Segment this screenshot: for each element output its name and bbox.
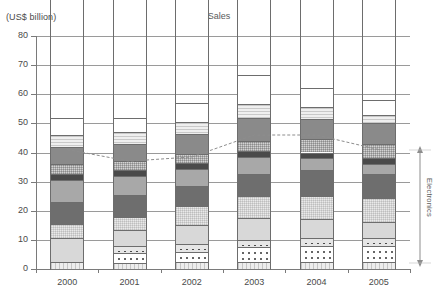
- y-axis-tick-label: 30: [2, 176, 28, 186]
- bar-segment-s12-white-top: [51, 118, 83, 135]
- bar-segment-s8-black: [51, 174, 83, 180]
- y-tick-80: [31, 36, 37, 37]
- x-tick: [348, 269, 349, 273]
- bar-segment-s8-black: [363, 158, 395, 164]
- bar-segment-s12-white-top: [238, 75, 270, 104]
- y-axis-tick-label: 50: [2, 117, 28, 127]
- gridline-60: [36, 94, 410, 95]
- bar-2000[interactable]: [50, 0, 84, 270]
- bar-segment-s2-dots-open: [238, 247, 270, 262]
- bar-segment-s11-hstripe: [301, 107, 333, 119]
- bar-segment-s1-base-vstripe: [363, 262, 395, 269]
- bar-segment-s8-black: [114, 170, 146, 176]
- bar-segment-s3-dots-filled: [238, 240, 270, 247]
- electronics-label: Electronics: [425, 178, 434, 217]
- bar-segment-s2-dots-open: [114, 253, 146, 263]
- y-axis-tick-label: 0: [2, 263, 28, 273]
- bar-segment-s7-grey: [51, 180, 83, 202]
- gridline-40: [36, 153, 410, 154]
- bar-segment-s3-dots-filled: [176, 244, 208, 251]
- gridline-70: [36, 65, 410, 66]
- bar-segment-s9-checker-dark: [363, 144, 395, 159]
- bar-segment-s8-black: [238, 151, 270, 157]
- bar-segment-s4-light: [114, 230, 146, 246]
- bar-segment-s3-dots-filled: [363, 238, 395, 245]
- bar-segment-s10-dark: [114, 144, 146, 161]
- y-tick-20: [31, 211, 37, 212]
- bar-segment-s6-vdark: [238, 174, 270, 196]
- bar-segment-s12-white-top: [301, 88, 333, 107]
- gridline-10: [36, 240, 410, 241]
- x-axis-tick-label: 2003: [226, 277, 282, 287]
- bar-segment-s2-dots-open: [363, 246, 395, 262]
- bar-2005[interactable]: [362, 0, 396, 270]
- bar-2001[interactable]: [113, 0, 147, 270]
- bar-segment-s3-dots-filled: [114, 246, 146, 253]
- bar-segment-s11-hstripe: [51, 135, 83, 147]
- bar-segment-s9-checker-dark: [301, 139, 333, 152]
- y-axis-tick-label: 10: [2, 234, 28, 244]
- bar-segment-s1-base-vstripe: [301, 262, 333, 269]
- y-axis-tick-label: 60: [2, 88, 28, 98]
- bar-segment-s5-checker: [114, 217, 146, 230]
- x-tick: [161, 269, 162, 273]
- bar-segment-s5-checker: [363, 198, 395, 223]
- bar-segment-s9-checker-dark: [51, 164, 83, 174]
- bar-segment-s6-vdark: [51, 202, 83, 224]
- x-tick: [410, 269, 411, 273]
- gridline-20: [36, 211, 410, 212]
- bar-segment-s4-light: [363, 222, 395, 238]
- bar-segment-s2-dots-open: [176, 252, 208, 262]
- y-tick-70: [31, 65, 37, 66]
- x-axis-tick-label: 2002: [164, 277, 220, 287]
- x-axis-tick-label: 2004: [289, 277, 345, 287]
- bar-segment-s7-grey: [363, 164, 395, 174]
- gridline-30: [36, 182, 410, 183]
- x-tick: [223, 269, 224, 273]
- y-tick-60: [31, 94, 37, 95]
- bar-segment-s6-vdark: [363, 174, 395, 197]
- bar-segment-s9-checker-dark: [238, 141, 270, 151]
- bar-2004[interactable]: [300, 0, 334, 270]
- y-tick-10: [31, 240, 37, 241]
- bar-segment-s9-checker-dark: [114, 161, 146, 170]
- bar-segment-s7-grey: [176, 169, 208, 186]
- bar-segment-s10-dark: [301, 119, 333, 139]
- bar-2003[interactable]: [237, 0, 271, 270]
- bar-segment-s1-base-vstripe: [238, 262, 270, 269]
- bar-segment-s6-vdark: [176, 186, 208, 206]
- bar-segment-s1-base-vstripe: [114, 263, 146, 269]
- y-tick-30: [31, 182, 37, 183]
- bar-segment-s1-base-vstripe: [176, 262, 208, 269]
- bar-segment-s5-checker: [51, 224, 83, 239]
- bar-segment-s10-dark: [176, 134, 208, 154]
- bar-segment-s1-base-vstripe: [51, 262, 83, 269]
- bar-segment-s10-dark: [238, 118, 270, 141]
- bar-segment-s4-light: [238, 218, 270, 240]
- y-axis-tick-label: 70: [2, 59, 28, 69]
- bar-segment-s3-dots-filled: [301, 238, 333, 245]
- bar-2002[interactable]: [175, 0, 209, 270]
- bar-segment-s8-black: [176, 163, 208, 169]
- bar-segment-s12-white-top: [363, 100, 395, 115]
- bar-segment-s4-light: [301, 219, 333, 238]
- y-axis-tick-label: 40: [2, 147, 28, 157]
- bar-segment-s11-hstripe: [363, 115, 395, 124]
- bar-segment-s7-grey: [301, 158, 333, 170]
- x-tick: [36, 269, 37, 273]
- bar-segment-s5-checker: [238, 196, 270, 218]
- bar-segment-s5-checker: [301, 196, 333, 219]
- bar-segment-s11-hstripe: [238, 104, 270, 117]
- x-axis-tick-label: 2005: [351, 277, 407, 287]
- bar-segment-s11-hstripe: [114, 132, 146, 144]
- gridline-50: [36, 123, 410, 124]
- x-tick: [285, 269, 286, 273]
- bar-segment-s4-light: [176, 225, 208, 244]
- x-axis-tick-label: 2000: [39, 277, 95, 287]
- bar-segment-s9-checker-dark: [176, 154, 208, 163]
- bar-segment-s12-white-top: [114, 118, 146, 133]
- chart-root: (US$ billion) Sales 01020304050607080 20…: [0, 0, 438, 307]
- x-axis-tick-label: 2001: [102, 277, 158, 287]
- bar-segment-s10-dark: [51, 147, 83, 164]
- bar-segment-s7-grey: [238, 157, 270, 174]
